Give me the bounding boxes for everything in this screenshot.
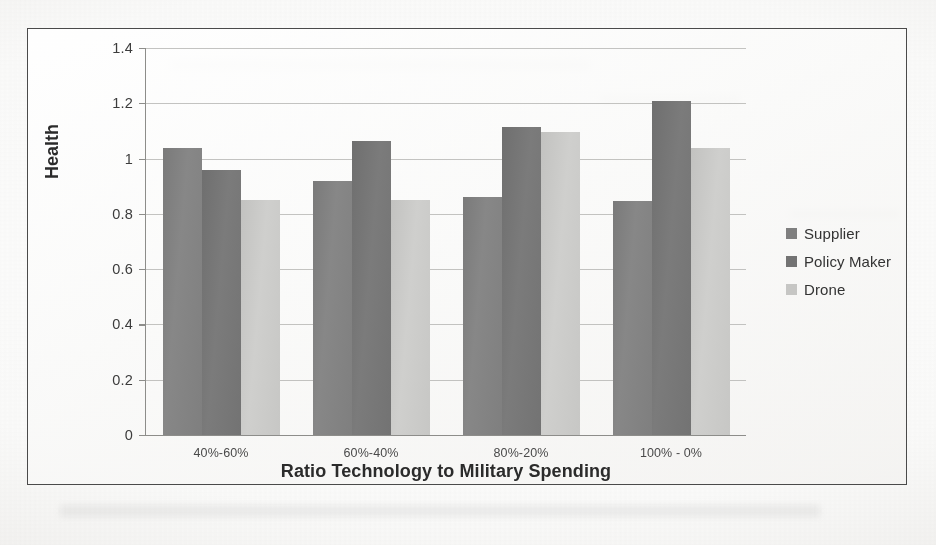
y-axis-tick-label: 0 (73, 427, 133, 443)
bar (691, 148, 730, 435)
y-axis-tick-mark (139, 48, 145, 49)
gridline (146, 48, 746, 49)
y-axis-tick-label: 1.4 (73, 40, 133, 56)
bar (241, 200, 280, 435)
x-axis-tick-label: 100% - 0% (596, 446, 746, 460)
legend-item: Supplier (786, 219, 904, 247)
x-axis-title: Ratio Technology to Military Spending (146, 461, 746, 482)
y-axis-tick-mark (139, 214, 145, 215)
y-axis-tick-mark (139, 324, 145, 325)
y-axis-tick-labels: 00.20.40.60.811.21.4 (63, 29, 133, 484)
x-axis-tick-label: 60%-40% (296, 446, 446, 460)
x-axis-tick-label: 40%-60% (146, 446, 296, 460)
bar (613, 201, 652, 435)
y-axis-tick-label: 1 (73, 151, 133, 167)
bar (163, 148, 202, 435)
gridline (146, 435, 746, 436)
bar (652, 101, 691, 435)
y-axis-tick-mark (139, 435, 145, 436)
bar (352, 141, 391, 435)
legend-swatch-icon (786, 228, 797, 239)
y-axis-tick-mark (139, 269, 145, 270)
plot-wrapper: Health 00.20.40.60.811.21.4 40%-60%60%-4… (28, 29, 906, 484)
y-axis-tick-label: 0.8 (73, 206, 133, 222)
bar (391, 200, 430, 435)
y-axis-tick-label: 0.6 (73, 261, 133, 277)
plot-area: 40%-60%60%-40%80%-20%100% - 0% (146, 48, 746, 435)
chart-frame: Health 00.20.40.60.811.21.4 40%-60%60%-4… (27, 28, 907, 485)
bar (463, 197, 502, 435)
legend-swatch-icon (786, 284, 797, 295)
chart-legend: SupplierPolicy MakerDrone (786, 219, 904, 303)
y-axis-tick-mark (139, 380, 145, 381)
y-axis-tick-mark (139, 159, 145, 160)
y-axis-tick-label: 1.2 (73, 95, 133, 111)
y-axis-tick-label: 0.2 (73, 372, 133, 388)
legend-item: Policy Maker (786, 247, 904, 275)
bar (202, 170, 241, 435)
legend-label: Supplier (804, 225, 860, 242)
legend-item: Drone (786, 275, 904, 303)
bar (541, 132, 580, 435)
bar (502, 127, 541, 435)
x-axis-tick-label: 80%-20% (446, 446, 596, 460)
y-axis-tick-mark (139, 103, 145, 104)
legend-label: Policy Maker (804, 253, 891, 270)
bar (313, 181, 352, 435)
y-axis-tick-label: 0.4 (73, 316, 133, 332)
legend-swatch-icon (786, 256, 797, 267)
legend-label: Drone (804, 281, 845, 298)
y-axis-title: Health (42, 124, 63, 179)
